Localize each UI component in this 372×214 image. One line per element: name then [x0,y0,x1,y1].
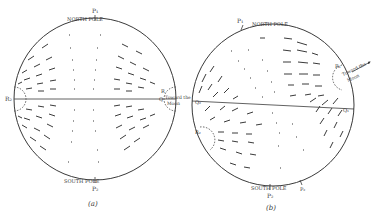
left-arc-b [200,127,215,150]
force-vectors-a [18,35,155,162]
tilt-point-bottom-label: P₂ [300,186,305,192]
panel-b: P₁ NORTH POLE SOUTH POLE P₂ P₂ Q₂ R₂ Q₁ … [192,17,370,212]
right-upper-point-label: R [161,88,165,94]
left-point-label: R₂ [5,95,13,102]
right-upper-point-label-b: R₁ [335,63,341,69]
right-point-label-b: Q₁ [343,107,349,113]
caption-b: (b) [266,204,276,212]
south-pole-point-label: P₂ [92,185,99,192]
tilt-point-top-tick-b [241,25,243,30]
equator-line-b [192,101,354,109]
left-point-label-b: Q₂ [195,99,201,105]
caption-a: (a) [88,200,98,208]
toward-moon-label-2: Moon [167,101,180,106]
tilt-point-top-label: P₁ [237,17,243,24]
tidal-force-diagram: P₁ NORTH POLE SOUTH POLE P₂ R₂ R Q Towar… [0,0,372,214]
toward-moon-label-1: Toward the [165,95,191,100]
force-vectors-b [199,38,343,168]
south-pole-label-b: SOUTH POLE [251,185,287,191]
panel-a: P₁ NORTH POLE SOUTH POLE P₂ R₂ R Q Towar… [5,7,191,208]
north-pole-label: NORTH POLE [67,16,103,22]
north-pole-point-label: P₁ [92,7,98,14]
south-pole-point-label-b: P₂ [267,192,274,199]
left-lower-point-label-b: R₂ [195,129,201,135]
south-pole-label: SOUTH POLE [64,178,100,184]
north-pole-label-b: NORTH POLE [252,21,288,27]
right-lower-point-label: Q [159,96,163,102]
